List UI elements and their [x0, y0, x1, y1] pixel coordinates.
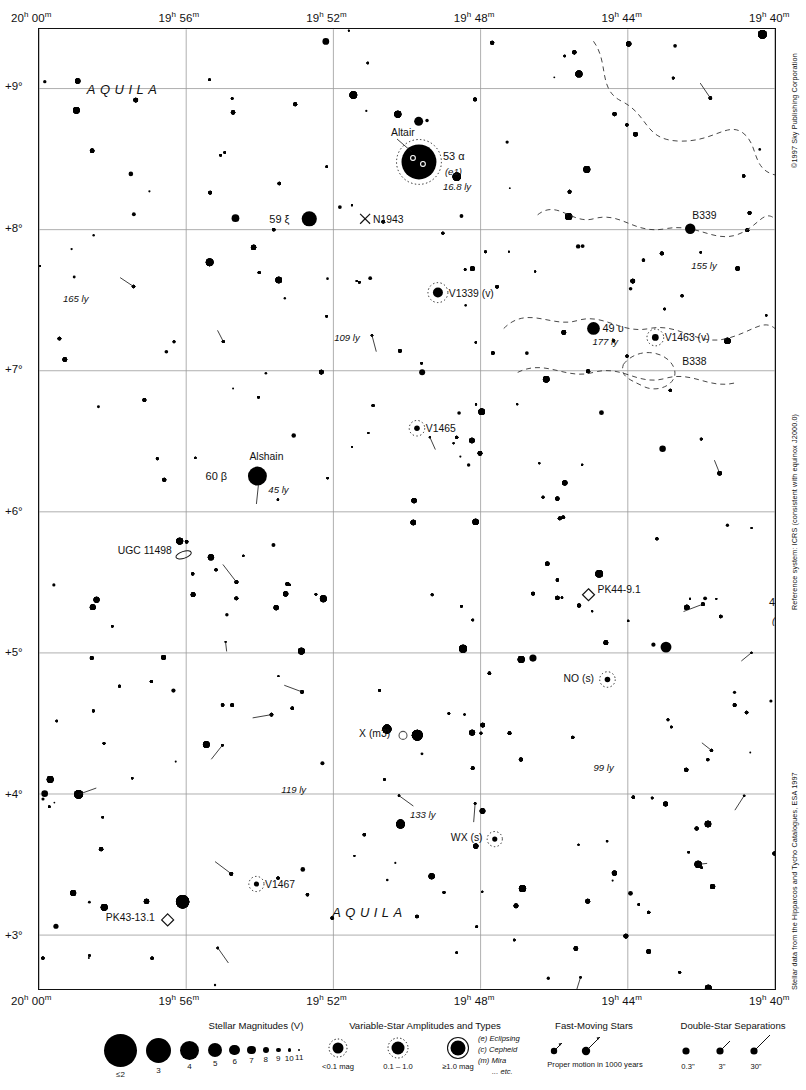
sky-object-alshain[interactable] — [248, 467, 267, 486]
star-dot — [473, 519, 479, 525]
star-dot — [705, 821, 711, 827]
star-dot — [467, 463, 470, 466]
star-dot — [320, 761, 324, 765]
star-dot — [90, 604, 96, 610]
star-dot — [624, 934, 629, 939]
star-dot — [156, 457, 159, 460]
star-dot — [415, 915, 419, 919]
star-dot — [481, 891, 483, 893]
sky-object-v1467[interactable] — [249, 876, 264, 891]
star-dot — [222, 340, 225, 343]
star-dot — [365, 110, 367, 112]
star-dot — [306, 893, 309, 896]
sky-object-pk43-13-1[interactable] — [162, 914, 174, 926]
star-dot — [655, 537, 658, 540]
star-dot — [542, 496, 545, 499]
star-dot — [367, 62, 369, 64]
star-dot — [41, 797, 44, 800]
dec-tick-label-plus7: +7° — [5, 363, 23, 375]
star-dot — [257, 396, 259, 398]
svg-text:X (m3): X (m3) — [359, 728, 390, 739]
sky-object-pk44-9-1[interactable] — [583, 589, 595, 601]
star-dot — [519, 758, 523, 762]
star-dot — [101, 904, 108, 911]
star-dot — [469, 730, 475, 736]
proper-motion-arrow — [284, 685, 302, 692]
chart-legend: 1267 Stellar Magnitudes (V) ≤23456789101… — [0, 1004, 806, 1090]
sky-object-no-aquilae[interactable] — [600, 672, 616, 688]
star-dot — [455, 436, 458, 439]
sky-object-x-aquilae[interactable] — [399, 731, 407, 739]
star-dot — [505, 140, 508, 143]
sky-object-v1339[interactable] — [428, 283, 448, 303]
dark-nebula-outline-0 — [593, 41, 775, 175]
star-dot — [700, 251, 702, 253]
star-dot — [646, 949, 651, 954]
sky-object-ugc-11498[interactable] — [175, 549, 192, 560]
sky-object-v1465[interactable] — [409, 420, 425, 436]
star-dot — [464, 268, 466, 270]
star-dot — [577, 604, 581, 608]
proper-motion-arrow — [702, 743, 712, 751]
star-dot — [214, 984, 216, 986]
dec-tick-label-plus9: +9° — [5, 80, 23, 92]
fast-moving-swatch-1 — [572, 1034, 606, 1060]
star-dot — [88, 954, 90, 956]
star-dot — [745, 711, 748, 714]
star-dot — [350, 91, 358, 99]
fast-moving-swatch-0 — [540, 1034, 574, 1060]
sky-chart-frame[interactable]: Altair53 α(e1)16.8 lyAlshain60 β45 ly59 … — [38, 28, 776, 990]
proper-motion-arrow — [399, 796, 413, 806]
sky-object-n1943[interactable] — [360, 214, 370, 224]
constellation-name-bottom: AQUILA — [331, 905, 406, 920]
sky-object-v1463[interactable] — [647, 329, 664, 346]
star-dot — [571, 736, 574, 739]
double-star-swatch-1 — [706, 1034, 740, 1060]
magnitude-swatch-label-1: 3 — [149, 1066, 169, 1075]
star-dot — [338, 205, 342, 209]
dec-tick-label-plus3: +3° — [5, 929, 23, 941]
star-dot — [735, 266, 739, 270]
sky-object-label-44-sigma: 44 σ(e1) — [769, 596, 775, 626]
star-dot — [568, 190, 572, 194]
star-dot — [553, 76, 555, 78]
sky-object-wx-aquilae[interactable] — [487, 832, 502, 847]
svg-text:(e1): (e1) — [445, 166, 462, 177]
star-dot — [144, 899, 149, 904]
sky-object-b339[interactable] — [685, 224, 695, 234]
proper-motion-arrow — [700, 83, 710, 98]
star-dot — [111, 625, 113, 627]
star-dot — [514, 903, 519, 908]
constellation-name-top: AQUILA — [86, 82, 161, 97]
svg-text:165 ly: 165 ly — [63, 293, 90, 304]
sky-object-49-upsilon[interactable] — [587, 322, 600, 335]
star-dot — [300, 867, 305, 872]
variable-swatch-0 — [326, 1036, 350, 1060]
star-dot — [283, 591, 288, 596]
variable-swatch-label-1: 0.1 – 1.0 — [368, 1062, 428, 1071]
svg-text:AQUILA: AQUILA — [86, 82, 161, 97]
star-dot — [176, 895, 189, 908]
star-dot — [576, 244, 580, 248]
star-dot — [103, 742, 106, 745]
star-dot — [208, 191, 212, 195]
star-dot — [678, 971, 681, 974]
star-dot — [525, 351, 529, 355]
star-dot — [150, 957, 153, 960]
dec-tick-label-plus6: +6° — [5, 505, 23, 517]
star-dot — [53, 802, 55, 804]
proper-motion-arrow — [211, 745, 222, 759]
star-dot — [509, 187, 511, 189]
sky-object-altair[interactable] — [397, 140, 442, 185]
proper-motion-arrow — [735, 796, 744, 810]
sky-object-label-n1943: N1943 — [373, 214, 404, 225]
sky-object-59-xi[interactable] — [302, 211, 317, 226]
double-star-swatch-label-2: 30" — [734, 1062, 778, 1071]
star-dot — [143, 398, 147, 402]
star-dot — [52, 583, 55, 586]
sky-object-label-no-aquilae: NO (s) — [564, 673, 595, 684]
star-dot — [758, 148, 761, 151]
star-dot — [265, 372, 268, 375]
legend-doubles-title: Double-Star Separations — [660, 1020, 806, 1031]
star-dot — [161, 655, 166, 660]
